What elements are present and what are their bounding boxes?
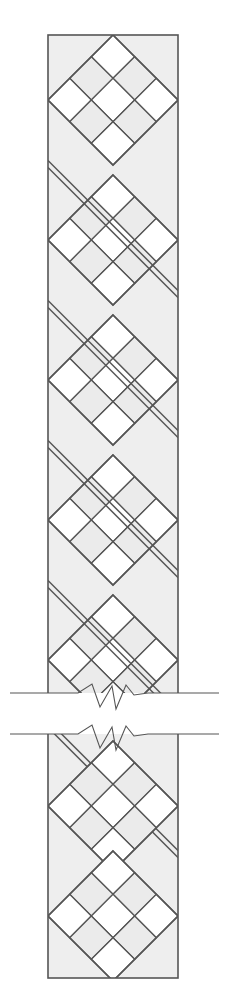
drawing-canvas: [0, 0, 229, 1004]
column-lattice-drawing: [0, 0, 229, 1004]
